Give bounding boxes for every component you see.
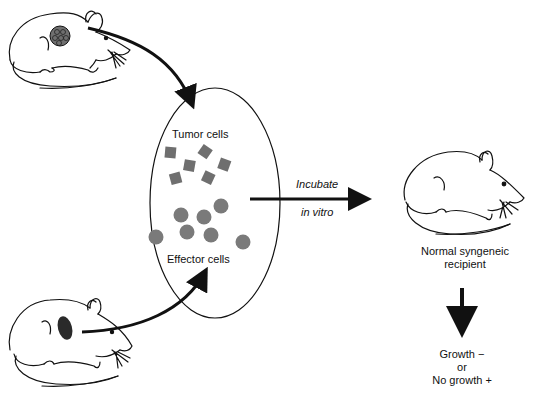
arrow-tumor-to-vessel <box>88 28 192 104</box>
spleen-icon <box>55 315 75 342</box>
winn-assay-diagram: Tumor cells Effector cells Incubate in v… <box>0 0 533 399</box>
tumor-icon <box>50 26 70 46</box>
effector-donor-mouse-icon <box>9 299 132 387</box>
outcome-line2: or <box>412 361 512 374</box>
tumor-cells-label: Tumor cells <box>172 128 228 141</box>
incubate-label: Incubate <box>296 178 338 191</box>
effector-cells-group <box>149 199 251 250</box>
outcome-line3: No growth + <box>412 374 512 387</box>
outcome-line1: Growth − <box>412 348 512 361</box>
recipient-mouse-icon <box>404 151 524 234</box>
recipient-label: Normal syngeneic recipient <box>405 245 525 271</box>
in-vitro-label: in vitro <box>301 206 333 219</box>
recipient-label-line1: Normal syngeneic <box>405 245 525 258</box>
effector-cells-label: Effector cells <box>167 253 230 266</box>
tumor-cells-group <box>164 144 231 185</box>
recipient-label-line2: recipient <box>405 258 525 271</box>
tumor-donor-mouse-icon <box>9 11 130 88</box>
outcome-label: Growth − or No growth + <box>412 348 512 387</box>
